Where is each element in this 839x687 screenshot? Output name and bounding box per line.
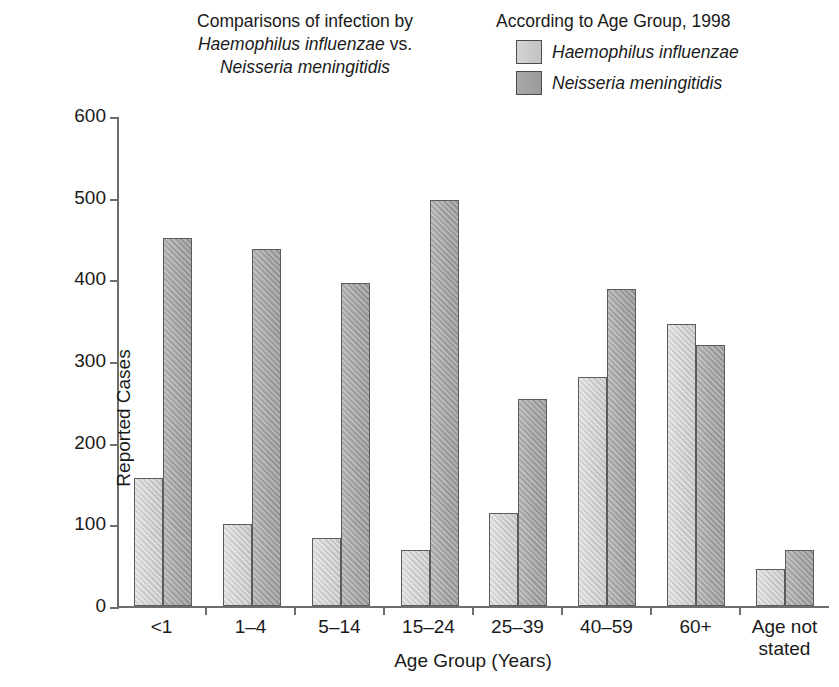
x-axis-tick-mark bbox=[294, 608, 296, 615]
bar bbox=[489, 513, 518, 606]
y-axis-tick-mark bbox=[110, 199, 119, 201]
y-axis-tick-label: 300 bbox=[74, 350, 106, 372]
bar bbox=[667, 324, 696, 606]
chart-title: Comparisons of infection by Haemophilus … bbox=[140, 10, 470, 79]
y-axis-tick-label: 100 bbox=[74, 513, 106, 535]
bar-group bbox=[223, 118, 281, 606]
bar bbox=[312, 538, 341, 606]
chart-title-species-1: Haemophilus influenzae bbox=[198, 34, 385, 54]
bar bbox=[341, 283, 370, 606]
bar bbox=[696, 345, 725, 606]
y-axis-tick-mark bbox=[110, 117, 119, 119]
y-axis-tick-mark bbox=[110, 607, 119, 609]
bar-series-container bbox=[119, 118, 829, 606]
chart-title-vs: vs. bbox=[385, 34, 412, 54]
bar-group bbox=[756, 118, 814, 606]
bar bbox=[163, 238, 192, 606]
x-axis-tick-mark bbox=[383, 608, 385, 615]
legend-item-haemophilus-influenzae: Haemophilus influenzae bbox=[516, 40, 836, 64]
y-axis-tick-mark bbox=[110, 362, 119, 364]
bar bbox=[607, 289, 636, 606]
x-axis-label: Age Group (Years) bbox=[117, 650, 829, 672]
chart-title-line-2: Haemophilus influenzae vs. bbox=[140, 33, 470, 56]
bar bbox=[134, 478, 163, 606]
bar bbox=[518, 399, 547, 606]
x-axis-tick-mark bbox=[739, 608, 741, 615]
x-axis-tick-mark bbox=[561, 608, 563, 615]
x-axis-tick-mark bbox=[472, 608, 474, 615]
x-axis-tick-mark bbox=[650, 608, 652, 615]
legend-heading: According to Age Group, 1998 bbox=[496, 10, 836, 33]
y-axis-tick-label: 200 bbox=[74, 432, 106, 454]
bar-group bbox=[489, 118, 547, 606]
legend-swatch-icon-neisseria bbox=[516, 71, 542, 95]
plot-area: Reported Cases 0100200300400500600 bbox=[117, 118, 829, 608]
chart-title-species-2: Neisseria meningitidis bbox=[140, 56, 470, 79]
legend-swatch-icon-haemophilus bbox=[516, 40, 542, 64]
legend: According to Age Group, 1998 Haemophilus… bbox=[496, 10, 836, 95]
bar bbox=[401, 550, 430, 606]
chart-figure: Comparisons of infection by Haemophilus … bbox=[0, 0, 839, 687]
x-axis-tick-mark bbox=[205, 608, 207, 615]
bar bbox=[756, 569, 785, 606]
legend-item-neisseria-meningitidis: Neisseria meningitidis bbox=[516, 71, 836, 95]
y-axis-tick-label: 0 bbox=[95, 595, 106, 617]
chart-title-line-1: Comparisons of infection by bbox=[140, 10, 470, 33]
bar-group bbox=[578, 118, 636, 606]
y-axis-tick-label: 500 bbox=[74, 187, 106, 209]
y-axis-tick-mark bbox=[110, 444, 119, 446]
bar-group bbox=[667, 118, 725, 606]
y-axis-tick-mark bbox=[110, 280, 119, 282]
y-axis-tick-label: 400 bbox=[74, 268, 106, 290]
legend-label-haemophilus: Haemophilus influenzae bbox=[552, 42, 739, 63]
bar-group bbox=[312, 118, 370, 606]
bar-group bbox=[401, 118, 459, 606]
bar-group bbox=[134, 118, 192, 606]
bar bbox=[785, 550, 814, 606]
y-axis-tick-mark bbox=[110, 525, 119, 527]
y-axis-tick-label: 600 bbox=[74, 105, 106, 127]
legend-label-neisseria: Neisseria meningitidis bbox=[552, 73, 722, 94]
bar bbox=[223, 524, 252, 606]
bar bbox=[578, 377, 607, 606]
bar bbox=[430, 200, 459, 606]
bar bbox=[252, 249, 281, 606]
